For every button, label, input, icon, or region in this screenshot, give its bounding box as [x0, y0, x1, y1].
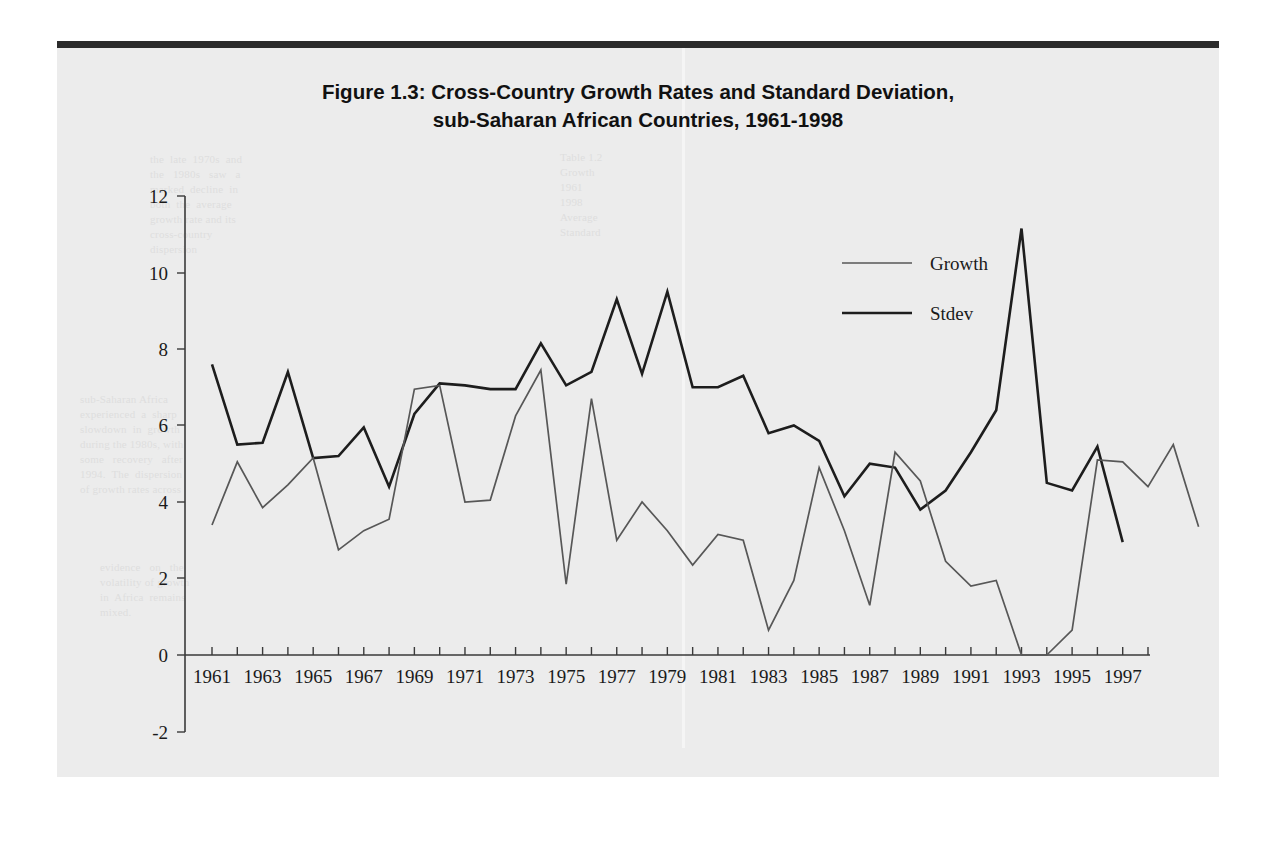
y-tick-label: 2: [159, 568, 169, 589]
x-tick-label: 1973: [497, 666, 535, 687]
y-tick-label: 10: [149, 263, 168, 284]
x-tick-label: 1969: [395, 666, 433, 687]
x-tick-label: 1979: [648, 666, 686, 687]
y-tick-label: 12: [149, 186, 168, 207]
x-tick-label: 1983: [750, 666, 788, 687]
y-axis-tick-labels: 12 10 8 6 4 2 0 -2: [149, 186, 169, 743]
x-tick-label: 1963: [244, 666, 282, 687]
chart-plot-area: 12 10 8 6 4 2 0 -2 196119631965196719691…: [0, 0, 1275, 846]
x-axis-ticks: [212, 647, 1148, 655]
y-tick-label: 6: [159, 415, 169, 436]
series-line-growth: [212, 370, 1199, 655]
y-tick-label: 0: [159, 645, 169, 666]
y-tick-label: -2: [152, 722, 168, 743]
x-tick-label: 1991: [952, 666, 990, 687]
y-tick-label: 4: [159, 492, 169, 513]
x-tick-label: 1967: [345, 666, 383, 687]
x-tick-label: 1975: [547, 666, 585, 687]
legend-label-growth: Growth: [930, 253, 989, 274]
series-line-stdev: [212, 229, 1123, 543]
x-tick-label: 1961: [193, 666, 231, 687]
x-tick-label: 1971: [446, 666, 484, 687]
x-tick-label: 1985: [800, 666, 838, 687]
x-axis-tick-labels: 1961196319651967196919711973197519771979…: [193, 666, 1142, 687]
y-tick-label: 8: [159, 339, 169, 360]
chart-legend: Growth Stdev: [842, 253, 989, 324]
x-tick-label: 1997: [1104, 666, 1142, 687]
x-tick-label: 1981: [699, 666, 737, 687]
x-tick-label: 1977: [598, 666, 636, 687]
x-tick-label: 1965: [294, 666, 332, 687]
line-chart-svg: 12 10 8 6 4 2 0 -2 196119631965196719691…: [0, 0, 1275, 846]
y-axis-ticks: [177, 196, 185, 732]
x-tick-label: 1989: [901, 666, 939, 687]
x-tick-label: 1987: [851, 666, 889, 687]
x-tick-label: 1993: [1003, 666, 1041, 687]
x-tick-label: 1995: [1053, 666, 1091, 687]
legend-label-stdev: Stdev: [930, 303, 974, 324]
figure-page: the late 1970s and the 1980s saw a marke…: [0, 0, 1275, 846]
